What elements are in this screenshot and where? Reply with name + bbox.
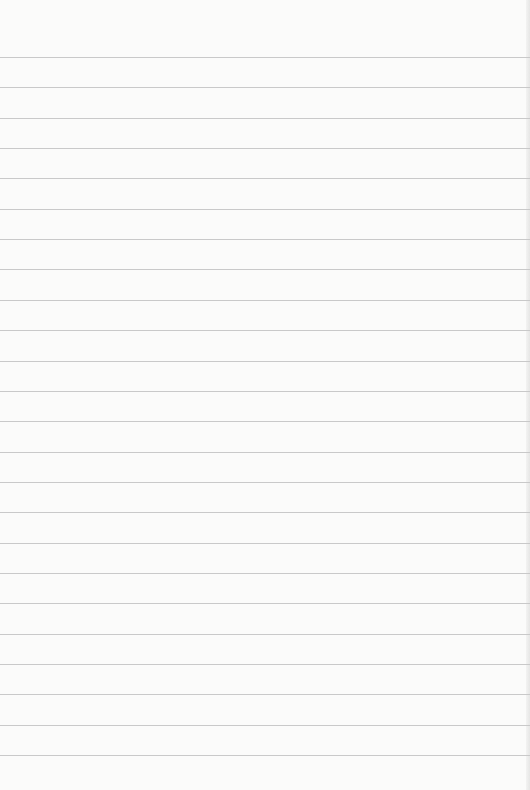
ruled-line: [0, 361, 530, 362]
ruled-line: [0, 391, 530, 392]
ruled-line: [0, 87, 530, 88]
ruled-line: [0, 573, 530, 574]
ruled-line: [0, 603, 530, 604]
ruled-line: [0, 634, 530, 635]
ruled-line: [0, 148, 530, 149]
ruled-line: [0, 725, 530, 726]
ruled-line: [0, 452, 530, 453]
ruled-line: [0, 239, 530, 240]
ruled-line: [0, 755, 530, 756]
ruled-line: [0, 543, 530, 544]
lined-paper: [0, 0, 530, 790]
ruled-line: [0, 209, 530, 210]
ruled-line: [0, 269, 530, 270]
ruled-line: [0, 694, 530, 695]
ruled-line: [0, 512, 530, 513]
ruled-line: [0, 300, 530, 301]
ruled-line: [0, 330, 530, 331]
ruled-line: [0, 118, 530, 119]
ruled-line: [0, 421, 530, 422]
ruled-line: [0, 664, 530, 665]
ruled-line: [0, 482, 530, 483]
ruled-line: [0, 57, 530, 58]
ruled-line: [0, 178, 530, 179]
